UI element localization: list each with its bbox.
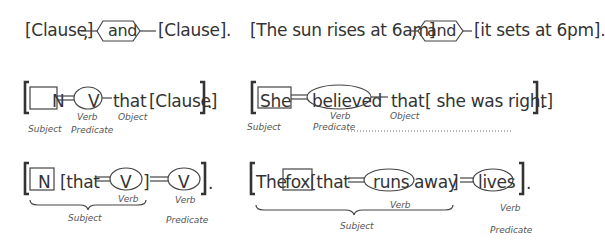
verb-oval bbox=[168, 168, 200, 190]
noun-box bbox=[30, 87, 57, 109]
noun-box bbox=[258, 87, 291, 108]
subject-brace bbox=[256, 205, 453, 215]
verb-oval bbox=[74, 87, 102, 109]
sentence-bracket-close bbox=[200, 82, 204, 113]
sentence-bracket-open bbox=[25, 163, 29, 194]
verb-oval bbox=[110, 168, 142, 190]
sentence-bracket-close bbox=[201, 163, 205, 194]
verb-oval bbox=[473, 169, 513, 191]
subject-brace bbox=[30, 200, 146, 210]
verb-oval bbox=[364, 169, 414, 191]
sentence-bracket-close bbox=[533, 82, 537, 113]
conjunction-hexagon bbox=[418, 21, 463, 41]
verb-oval bbox=[307, 85, 371, 109]
noun-box bbox=[30, 168, 54, 190]
sentence-bracket-open bbox=[25, 82, 29, 113]
conjunction-hexagon bbox=[97, 21, 140, 41]
sentence-bracket-close bbox=[519, 163, 523, 194]
sentence-bracket-open bbox=[252, 82, 256, 113]
sentence-bracket-open bbox=[251, 163, 255, 194]
noun-box bbox=[283, 169, 312, 190]
